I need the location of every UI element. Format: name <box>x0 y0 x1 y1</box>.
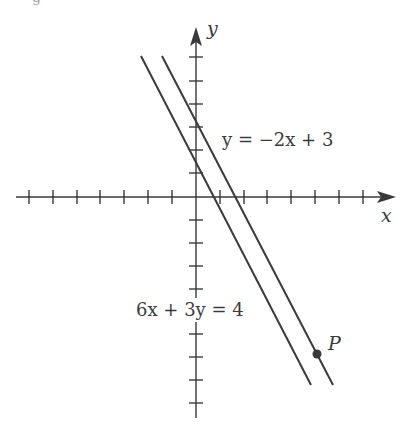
label-line-2: 6x + 3y = 4 <box>136 299 244 320</box>
x-axis-label: x <box>381 204 392 226</box>
point-p-marker <box>313 350 322 359</box>
line-y-equals-neg2x-plus-3 <box>162 56 333 385</box>
label-line-1: y = −2x + 3 <box>221 129 333 150</box>
point-p-label: P <box>327 332 342 354</box>
coordinate-diagram: g x <box>0 0 404 440</box>
caption-fragment: g <box>32 0 41 5</box>
y-axis <box>189 27 203 418</box>
x-axis <box>16 190 396 204</box>
line-6x-plus-3y-equals-4 <box>141 56 311 385</box>
y-axis-label: y <box>206 17 218 39</box>
